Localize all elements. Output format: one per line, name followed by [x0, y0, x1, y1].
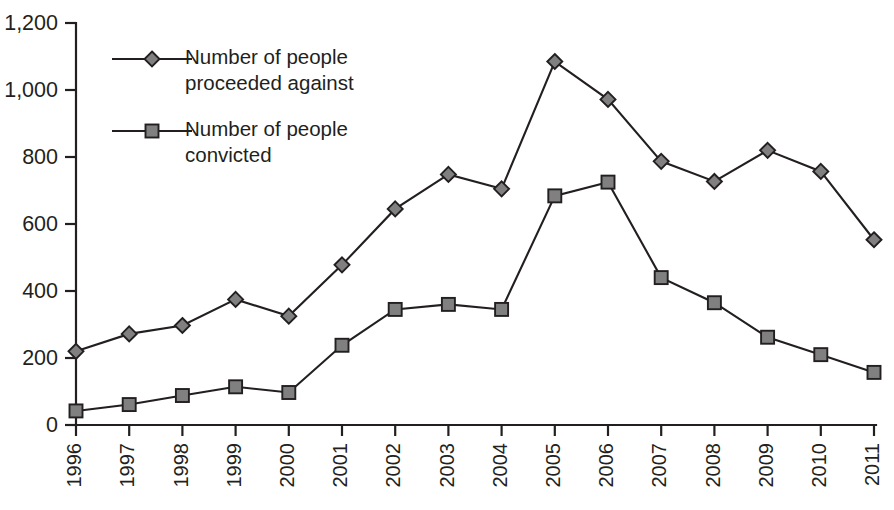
y-tick-label: 600 [22, 212, 58, 236]
x-tick-label: 2006 [595, 443, 617, 488]
chart-canvas: 02004006008001,0001,200 1996199719981999… [0, 0, 894, 510]
x-tick-label: 2005 [542, 443, 564, 488]
data-point-square [229, 380, 242, 393]
legend-label-line1: Number of people [185, 117, 348, 140]
x-tick-label: 1997 [116, 443, 138, 488]
x-tick-label: 2007 [648, 443, 670, 488]
y-tick-label: 200 [22, 346, 58, 370]
y-tick-label: 1,200 [4, 11, 58, 35]
x-tick-label: 2008 [702, 443, 724, 488]
x-tick-label: 2009 [755, 443, 777, 488]
x-tick-label: 2001 [329, 443, 351, 488]
data-point-square [176, 389, 189, 402]
legend-label-line2: proceeded against [185, 71, 354, 94]
data-point-square [814, 348, 827, 361]
x-tick-label: 2003 [436, 443, 458, 488]
y-tick-label: 800 [22, 145, 58, 169]
x-tick-label: 1999 [223, 443, 245, 488]
line-chart: 02004006008001,0001,200 1996199719981999… [0, 0, 894, 510]
y-tick-label: 1,000 [4, 78, 58, 102]
y-tick-label: 400 [22, 279, 58, 303]
legend-label-line2: convicted [185, 143, 272, 166]
data-point-square [123, 398, 136, 411]
data-point-square [495, 303, 508, 316]
x-tick-label: 1998 [170, 443, 192, 488]
data-point-square [655, 271, 668, 284]
chart-background [0, 0, 894, 510]
x-tick-label: 2000 [276, 443, 298, 488]
data-point-square [602, 176, 615, 189]
data-point-square [442, 298, 455, 311]
x-tick-label: 2010 [808, 443, 830, 488]
x-tick-label: 2002 [382, 443, 404, 488]
data-point-square [282, 386, 295, 399]
legend-label-line1: Number of people [185, 45, 348, 68]
x-tick-label: 2004 [489, 443, 511, 488]
data-point-square [70, 404, 83, 417]
x-tick-label: 1996 [63, 443, 85, 488]
data-point-square [761, 331, 774, 344]
data-point-square [708, 296, 721, 309]
data-point-square [548, 189, 561, 202]
data-point-square [146, 125, 159, 138]
data-point-square [389, 303, 402, 316]
y-tick-label: 0 [46, 413, 58, 437]
data-point-square [868, 366, 881, 379]
data-point-square [336, 339, 349, 352]
x-tick-label: 2011 [861, 443, 883, 486]
